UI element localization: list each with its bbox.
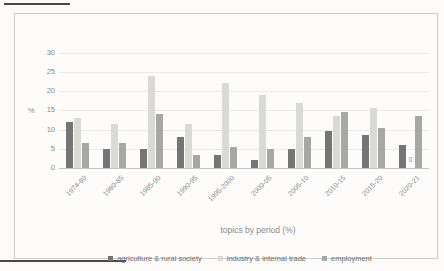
bar-employment (82, 143, 89, 168)
gridline (59, 53, 429, 54)
bar-industry-internal-trade (74, 118, 81, 168)
legend: agriculture & rural societyindustry & in… (30, 254, 444, 263)
legend-label: industry & internal trade (227, 254, 306, 263)
page-edge-rule-top (4, 3, 70, 5)
bar-employment (119, 143, 126, 168)
gridline (59, 72, 429, 73)
bar-agriculture-rural-society (66, 122, 73, 168)
bar-agriculture-rural-society (177, 137, 184, 168)
bar-industry-internal-trade (111, 124, 118, 168)
x-axis-line (59, 168, 429, 169)
legend-item: industry & internal trade (218, 254, 306, 263)
x-tick-label: 2000-05 (249, 174, 272, 197)
y-tick-label: 15 (31, 106, 55, 114)
chart-frame: % topics by period (%) agriculture & rur… (14, 13, 438, 259)
bar-employment (415, 116, 422, 168)
x-axis-title: topics by period (%) (73, 225, 443, 235)
bar-industry-internal-trade (333, 116, 340, 168)
y-tick-label: 20 (31, 87, 55, 95)
x-tick-label: 2015-20 (360, 174, 383, 197)
x-tick-label: 1990-95 (175, 174, 198, 197)
x-tick-label: 2005-10 (286, 174, 309, 197)
legend-label: employment (331, 254, 372, 263)
y-tick-label: 10 (31, 126, 55, 134)
bar-data-label: 0 (405, 156, 416, 163)
bar-agriculture-rural-society (362, 135, 369, 168)
bar-employment (230, 147, 237, 168)
x-tick-label: 1995-2000 (207, 174, 236, 203)
y-tick-label: 5 (31, 145, 55, 153)
bar-employment (341, 112, 348, 168)
bar-agriculture-rural-society (214, 155, 221, 168)
bar-industry-internal-trade (222, 83, 229, 168)
bar-agriculture-rural-society (325, 131, 332, 168)
bar-agriculture-rural-society (140, 149, 147, 168)
bar-industry-internal-trade (185, 124, 192, 168)
x-tick-label: 1985-90 (138, 174, 161, 197)
bar-industry-internal-trade (370, 108, 377, 168)
bar-employment (156, 114, 163, 168)
legend-item: agriculture & rural society (108, 254, 202, 263)
legend-marker-icon (322, 256, 327, 261)
legend-marker-icon (108, 256, 113, 261)
bar-employment (267, 149, 274, 168)
gridline (59, 91, 429, 92)
x-tick-label: 2020-21 (397, 174, 420, 197)
y-tick-label: 0 (31, 164, 55, 172)
bar-agriculture-rural-society (288, 149, 295, 168)
legend-label: agriculture & rural society (117, 254, 202, 263)
y-tick-label: 30 (31, 49, 55, 57)
bar-industry-internal-trade (296, 103, 303, 168)
x-tick-label: 2010-15 (323, 174, 346, 197)
legend-item: employment (322, 254, 372, 263)
bar-industry-internal-trade (148, 76, 155, 168)
y-tick-label: 25 (31, 68, 55, 76)
bar-agriculture-rural-society (251, 160, 258, 168)
bar-industry-internal-trade (259, 95, 266, 168)
bar-agriculture-rural-society (103, 149, 110, 168)
bar-employment (193, 155, 200, 168)
bar-employment (378, 128, 385, 168)
legend-marker-icon (218, 256, 223, 261)
bar-employment (304, 137, 311, 168)
x-tick-label: 1980-85 (101, 174, 124, 197)
x-tick-label: 1974-80 (64, 174, 87, 197)
